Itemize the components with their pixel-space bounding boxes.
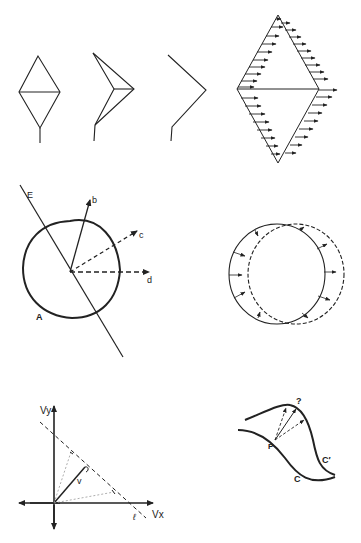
faint-vector-1 [54,452,71,503]
curve-correspondence [238,405,335,481]
label-c: c [139,230,144,240]
flow-arrows [238,19,337,154]
label-b: b [92,195,97,205]
circle-displacement [229,224,344,324]
label-v: v [77,476,82,486]
folded-rhombus [93,53,134,141]
dashed-circle [248,224,344,324]
arrow-3 [275,420,304,440]
displacement-arrows [229,227,336,318]
label-question: ? [296,396,302,406]
label-d: d [147,275,152,285]
velocity-space [19,406,153,529]
solid-circle [229,224,325,324]
tick-2 [112,490,115,494]
curve-C [238,430,335,480]
label-P: P [268,442,274,451]
arrow-1 [275,408,286,440]
figure-canvas: E b c d A Vy Vx v ℓ [0,0,361,543]
rhombus-sequence [19,53,206,143]
label-C-prime: C′ [322,455,331,465]
label-l: ℓ [132,512,136,522]
circle-vectors [20,185,149,357]
arrow-2 [275,409,296,440]
circle-A [23,220,120,318]
label-A: A [36,312,43,322]
right-angle-mark [85,467,88,472]
label-Vy: Vy [40,405,51,416]
bent-line [168,55,206,141]
label-E: E [27,190,33,200]
rhombus-flow-field [237,15,337,163]
vector-b [70,200,90,272]
label-C: C [294,474,301,484]
rhombus-with-stem [19,56,60,143]
label-Vx: Vx [152,509,164,520]
